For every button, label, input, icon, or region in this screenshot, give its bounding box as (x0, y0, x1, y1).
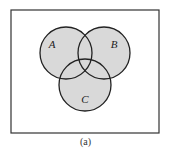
set-b-label: B (111, 38, 118, 50)
set-a-label: A (48, 38, 56, 50)
venn-diagram: A B C (0, 0, 171, 156)
venn-diagram-figure: A B C (a) (0, 0, 171, 156)
set-c-label: C (81, 93, 89, 105)
figure-caption: (a) (0, 136, 171, 147)
